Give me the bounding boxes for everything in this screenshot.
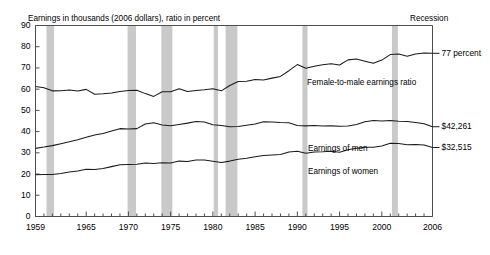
recession-band — [46, 26, 54, 217]
y-axis-tick-label: 50 — [11, 105, 31, 115]
y-axis-tick-label: 30 — [11, 147, 31, 157]
y-axis-tick-label: 10 — [11, 190, 31, 200]
recession-bands-group — [46, 26, 397, 217]
recession-band — [302, 26, 307, 217]
y-axis-tick-label: 90 — [11, 20, 31, 30]
y-axis-tick-label: 60 — [11, 84, 31, 94]
series-inline-label: Earnings of women — [308, 167, 378, 176]
x-axis-tick-label: 2006 — [413, 222, 453, 232]
x-axis-tick-label: 1990 — [277, 222, 317, 232]
series-inline-label: Earnings of men — [308, 144, 368, 153]
y-axis-tick-label: 20 — [11, 169, 31, 179]
x-axis-tick-label: 1985 — [235, 222, 275, 232]
x-axis-tick-label: 1965 — [66, 222, 106, 232]
recession-band — [214, 26, 218, 217]
y-axis-tick-label: 40 — [11, 126, 31, 136]
recession-band — [128, 26, 136, 217]
x-axis-tick-label: 1995 — [320, 222, 360, 232]
series-inline-label: Female-to-male earnings ratio — [307, 78, 416, 87]
recession-band — [161, 26, 172, 217]
chart-figure: Earnings in thousands (2006 dollars), ra… — [0, 0, 490, 255]
y-axis-tick-label: 70 — [11, 62, 31, 72]
x-axis-tick-label: 2000 — [362, 222, 402, 232]
series-end-label: $32,515 — [442, 142, 472, 152]
x-axis-tick-label: 1970 — [108, 222, 148, 232]
chart-plot-area — [0, 0, 490, 255]
x-axis-tick-label: 1959 — [16, 222, 56, 232]
series-end-label: $42,261 — [442, 121, 472, 131]
x-axis-tick-label: 1975 — [151, 222, 191, 232]
recession-band — [226, 26, 238, 217]
y-axis-tick-label: 0 — [11, 211, 31, 221]
series-end-label: 77 percent — [442, 48, 482, 58]
y-axis-tick-label: 80 — [11, 41, 31, 51]
x-axis-tick-label: 1980 — [193, 222, 233, 232]
label-leader-lines — [433, 53, 440, 147]
